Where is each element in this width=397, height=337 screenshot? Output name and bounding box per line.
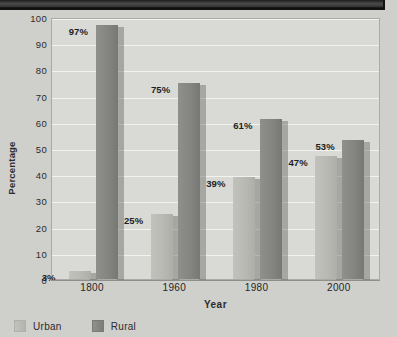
legend-item-urban[interactable]: Urban xyxy=(14,320,62,332)
plot-area: 3%97%25%75%39%61%47%53% xyxy=(51,18,380,280)
bar-label-rural-2000: 53% xyxy=(315,141,335,152)
bar-shadow xyxy=(199,85,206,282)
y-axis-tick-50: 50 xyxy=(20,144,47,155)
bar-rural-1960[interactable] xyxy=(178,83,200,280)
y-axis-tick-40: 40 xyxy=(20,170,47,181)
bar-shadow xyxy=(363,142,370,281)
bar-shadow xyxy=(281,121,288,281)
y-axis-tick-90: 90 xyxy=(20,39,47,50)
bar-urban-1980[interactable] xyxy=(233,177,255,279)
bar-rural-1800[interactable] xyxy=(96,25,118,279)
y-axis-title: Percentage xyxy=(6,118,17,218)
legend-label: Rural xyxy=(111,321,136,332)
bar-label-urban-2000: 47% xyxy=(288,157,308,168)
y-axis-tick-labels: 0102030405060708090100 xyxy=(20,18,47,280)
bar-rural-2000[interactable] xyxy=(342,140,364,279)
bar-label-urban-1980: 39% xyxy=(206,178,226,189)
x-axis-title: Year xyxy=(51,299,380,310)
x-axis-tick-labels: 1800196019802000 xyxy=(51,282,380,298)
bar-chart-figure: Percentage 0102030405060708090100 3%97%2… xyxy=(0,10,397,337)
y-axis-tick-20: 20 xyxy=(20,222,47,233)
legend-label: Urban xyxy=(33,321,62,332)
bar-urban-1960[interactable] xyxy=(151,214,173,280)
y-axis-tick-10: 10 xyxy=(20,248,47,259)
y-axis-tick-100: 100 xyxy=(20,13,47,24)
bar-shadow xyxy=(117,27,124,281)
bars-layer: 3%97%25%75%39%61%47%53% xyxy=(52,19,379,279)
bar-label-rural-1980: 61% xyxy=(233,120,253,131)
legend-swatch-urban-icon xyxy=(14,320,26,332)
x-axis-line xyxy=(51,280,380,281)
bar-label-urban-1960: 25% xyxy=(124,215,144,226)
y-axis-tick-60: 60 xyxy=(20,117,47,128)
chart-legend: UrbanRural xyxy=(14,320,136,332)
top-banner-strip xyxy=(0,0,385,10)
x-axis-tick-2000: 2000 xyxy=(304,282,374,293)
x-axis-tick-1960: 1960 xyxy=(139,282,209,293)
bar-rural-1980[interactable] xyxy=(260,119,282,279)
bar-urban-2000[interactable] xyxy=(315,156,337,279)
y-axis-tick-30: 30 xyxy=(20,196,47,207)
x-axis-tick-1980: 1980 xyxy=(222,282,292,293)
bar-label-rural-1960: 75% xyxy=(151,84,171,95)
x-axis-tick-1800: 1800 xyxy=(57,282,127,293)
bar-urban-1800[interactable] xyxy=(69,271,91,279)
bar-label-rural-1800: 97% xyxy=(69,26,89,37)
legend-swatch-rural-icon xyxy=(92,320,104,332)
y-axis-tick-80: 80 xyxy=(20,65,47,76)
y-axis-tick-70: 70 xyxy=(20,91,47,102)
legend-item-rural[interactable]: Rural xyxy=(92,320,136,332)
